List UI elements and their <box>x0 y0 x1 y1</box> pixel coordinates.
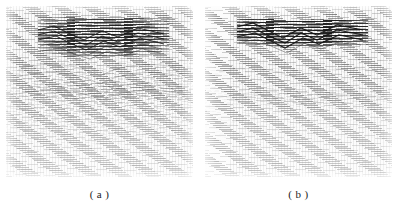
seismic-panel-a <box>6 6 193 177</box>
seismic-figure: ( a ) ( b ) <box>0 0 400 209</box>
panel-edge-fade <box>205 6 392 177</box>
panel-caption-a: ( a ) <box>6 186 193 202</box>
seismic-panel-b <box>205 6 392 177</box>
panel-edge-fade <box>6 6 193 177</box>
panel-caption-b: ( b ) <box>205 186 392 202</box>
